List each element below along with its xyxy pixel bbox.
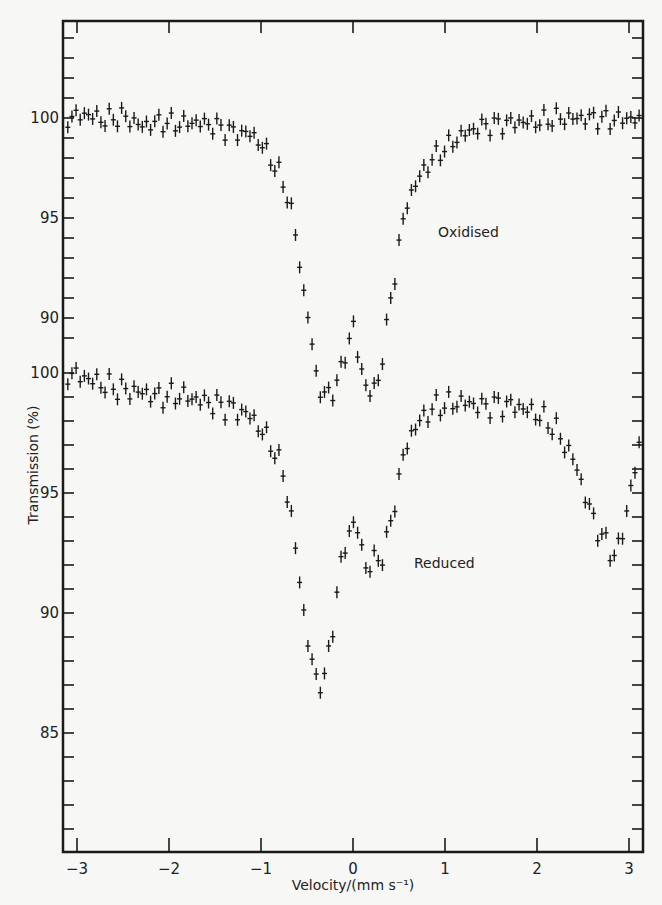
reduced-data-point [425,416,430,428]
reduced-data-point [604,527,609,539]
oxidised-data-point [405,202,410,214]
oxidised-data-point [562,118,567,130]
oxidised-data-point [152,115,157,127]
reduced-data-point [185,395,190,407]
x-axis-title: Velocity/(mm s⁻¹) [292,877,415,893]
oxidised-data-point [206,119,211,131]
reduced-data-point [310,653,315,665]
oxidised-data-point [223,134,228,146]
reduced-data-point [355,527,360,539]
reduced-data-point [119,373,124,385]
reduced-data-point [90,378,95,390]
oxidised-data-point [359,363,364,375]
oxidised-data-point [161,126,166,138]
reduced-label: Reduced [414,555,475,571]
reduced-data-point [218,396,223,408]
oxidised-data-point [554,102,559,114]
oxidised-data-point [566,107,571,119]
reduced-data-point [359,539,364,551]
reduced-data-point [82,370,87,382]
reduced-data-point [475,407,480,419]
oxidised-data-point [123,110,128,122]
reduced-data-point [541,401,546,413]
oxidised-data-point [546,118,551,130]
oxidised-data-point [190,117,195,129]
oxidised-data-point [372,377,377,389]
reduced-data-point [583,496,588,508]
reduced-data-point [417,415,422,427]
reduced-data-point [202,389,207,401]
reduced-data-point [566,439,571,451]
reduced-data-point [152,388,157,400]
reduced-data-point [558,433,563,445]
oxidised-data-point [392,278,397,290]
reduced-data-point [587,498,592,510]
reduced-data-point [231,397,236,409]
oxidised-data-point [595,123,600,135]
oxidised-data-point [467,124,472,136]
oxidised-data-point [330,395,335,407]
reduced-data-point [181,381,186,393]
oxidised-data-point [612,114,617,126]
reduced-data-point [388,515,393,527]
oxidised-data-point [239,125,244,137]
oxidised-data-point [430,154,435,166]
oxidised-data-point [74,104,79,116]
oxidised-data-point [165,117,170,129]
reduced-data-point [107,368,112,380]
oxidised-data-point [637,109,642,121]
reduced-data-point [546,422,551,434]
oxidised-data-point [334,374,339,386]
x-tick-label: 1 [440,860,450,878]
reduced-data-point [372,545,377,557]
x-tick-label: −3 [66,860,88,878]
oxidised-data-point [492,112,497,124]
oxidised-data-point [276,156,281,168]
oxidised-data-point [256,139,261,151]
oxidised-data-point [111,114,116,126]
reduced-data-point [330,631,335,643]
reduced-data-point [347,525,352,537]
reduced-data-point [392,506,397,518]
oxidised-data-point [583,118,588,130]
oxidised-data-point [537,119,542,131]
reduced-data-point [595,535,600,547]
reduced-data-point [624,505,629,517]
reduced-data-point [525,406,530,418]
oxidised-data-point [119,102,124,114]
y-tick-label: 95 [40,484,59,502]
x-tick-label: −1 [250,860,272,878]
oxidised-data-point [351,315,356,327]
reduced-data-point [483,398,488,410]
reduced-data-point [86,373,91,385]
oxidised-data-point [115,120,120,132]
oxidised-data-point [579,109,584,121]
reduced-data-point [223,414,228,426]
reduced-data-point [620,533,625,545]
reduced-data-point [488,412,493,424]
oxidised-data-point [591,107,596,119]
reduced-data-point [413,424,418,436]
oxidised-data-point [624,112,629,124]
x-axis-ticks: −3−2−10123 [66,21,634,878]
oxidised-data-point [363,379,368,391]
reduced-data-point [256,425,261,437]
oxidised-data-point [446,129,451,141]
plot-frame [63,21,643,852]
reduced-data-point [297,576,302,588]
reduced-data-point [161,402,166,414]
reduced-data-point [351,516,356,528]
reduced-data-point [136,386,141,398]
reduced-data-point [165,391,170,403]
reduced-data-point [504,395,509,407]
oxidised-data-point [558,113,563,125]
x-tick-label: 3 [624,860,634,878]
reduced-data-point [599,528,604,540]
oxidised-data-point [227,119,232,131]
oxidised-data-point [425,166,430,178]
oxidised-data-point [65,121,70,133]
reduced-data-point [397,468,402,480]
reduced-series-points [65,362,641,699]
reduced-data-point [276,444,281,456]
oxidised-data-point [397,234,402,246]
